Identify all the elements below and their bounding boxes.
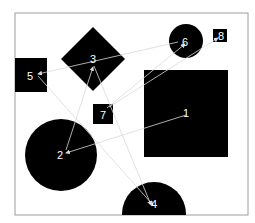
node-3-label: 3 bbox=[90, 53, 96, 65]
node-4-label: 4 bbox=[151, 198, 157, 210]
node-2-label: 2 bbox=[57, 149, 63, 161]
node-1-label: 1 bbox=[183, 107, 189, 119]
node-6-label: 6 bbox=[182, 36, 188, 48]
node-7-label: 7 bbox=[100, 109, 106, 121]
node-8-label: 8 bbox=[218, 30, 224, 42]
diagram-canvas: 12345678 bbox=[0, 0, 255, 223]
edge-3-to-4 bbox=[94, 66, 151, 205]
node-5-label: 5 bbox=[27, 70, 33, 82]
